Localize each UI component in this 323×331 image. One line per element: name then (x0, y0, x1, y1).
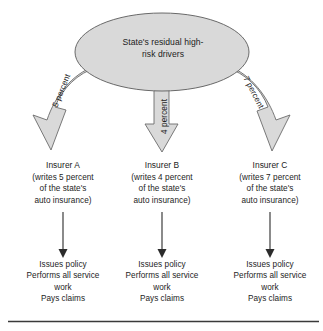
connector-arrow-b (158, 212, 167, 258)
connector-arrow-c (266, 212, 275, 258)
insurer-a-name: Insurer A (9, 160, 117, 172)
insurer-c-actions: Issues policy Performs all service work … (218, 259, 322, 305)
residual-pool-label: State's residual high- risk drivers (96, 36, 230, 60)
insurer-b-detail: (writes 4 percent of the state's auto in… (108, 172, 216, 206)
flow-label-b: 4 percent (160, 99, 169, 134)
insurer-c-name: Insurer C (218, 160, 322, 172)
insurer-b-name: Insurer B (108, 160, 216, 172)
insurer-c-detail: (writes 7 percent of the state's auto in… (218, 172, 322, 206)
insurer-b-actions: Issues policy Performs all service work … (108, 259, 216, 305)
insurer-a-actions: Issues policy Performs all service work … (9, 259, 117, 305)
insurer-a-detail: (writes 5 percent of the state's auto in… (9, 172, 117, 206)
insurance-flow-diagram: State's residual high- risk drivers 5 pe… (0, 0, 323, 331)
connector-arrow-a (59, 212, 68, 258)
